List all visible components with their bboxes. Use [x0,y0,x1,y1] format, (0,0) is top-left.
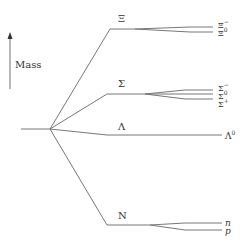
proton-level [150,225,222,230]
lambda-zero-label: Λ0 [224,129,236,141]
sigma-multiplet: Σ Σ− Σ0 Σ+ [50,78,229,129]
lambda-multiplet: Λ Λ0 [50,121,236,141]
xi-zero-level [135,29,213,32]
sigma-branch-line [50,94,145,129]
mass-axis-label: Mass [15,59,41,70]
proton-label: p [225,226,231,236]
sigma-minus-level [145,90,213,94]
xi-multiplet: Ξ Ξ− Ξ0 [50,13,229,129]
nucleon-branch-line [50,129,150,225]
up-arrow-icon [8,32,13,39]
sigma-plus-level [145,94,213,99]
lambda-label: Λ [117,121,126,132]
lambda-level [50,129,222,135]
nucleon-multiplet: N n p [50,129,231,236]
xi-label: Ξ [118,13,125,24]
neutron-level [150,223,222,225]
xi-minus-level [135,27,213,29]
nucleon-label: N [118,210,127,221]
sigma-label: Σ [118,78,125,89]
mass-axis: Mass [8,32,42,89]
mass-splitting-diagram: Mass Ξ Ξ− Ξ0 Σ Σ− Σ0 Σ+ Λ Λ0 N n p [0,0,248,247]
